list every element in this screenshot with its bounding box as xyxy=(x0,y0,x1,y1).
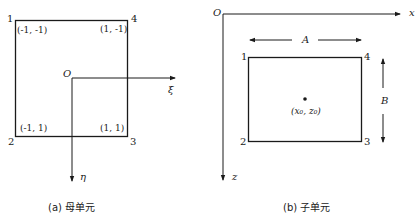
node-2-label: 2 xyxy=(8,137,14,147)
origin-label-left: O xyxy=(63,69,71,79)
height-label: B xyxy=(381,96,388,106)
xi-axis-label: ξ xyxy=(168,85,174,95)
node-3-label: 3 xyxy=(130,137,136,147)
node-4-coord: (1, -1) xyxy=(100,24,127,34)
width-label: A xyxy=(302,35,309,45)
node-1-coord: (-1, -1) xyxy=(17,25,47,35)
child-node-1-label: 1 xyxy=(241,52,247,62)
center-point xyxy=(303,97,307,101)
z-axis-label: z xyxy=(232,172,237,182)
x-axis-label: x xyxy=(409,8,415,18)
caption-child-element: (b) 子单元 xyxy=(283,199,330,214)
eta-axis-label: η xyxy=(80,172,86,182)
child-node-2-label: 2 xyxy=(240,137,246,147)
node-3-coord: (1, 1) xyxy=(100,123,124,133)
child-node-4-label: 4 xyxy=(364,52,370,62)
origin-label-right: O xyxy=(213,8,221,18)
center-coord-label: (x₀, z₀) xyxy=(291,106,321,116)
node-2-coord: (-1, 1) xyxy=(20,123,47,133)
caption-parent-element: (a) 母单元 xyxy=(48,199,95,214)
node-1-label: 1 xyxy=(7,14,13,24)
node-4-label: 4 xyxy=(131,14,137,24)
child-node-3-label: 3 xyxy=(364,137,370,147)
diagram-canvas xyxy=(0,0,420,220)
